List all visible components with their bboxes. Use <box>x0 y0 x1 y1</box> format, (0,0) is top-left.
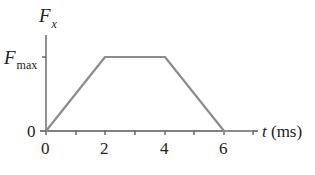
x-var: t <box>262 122 267 141</box>
x-tick-label-2: 2 <box>100 140 109 157</box>
y-axis-label: Fx <box>39 6 56 25</box>
y-sub: x <box>52 17 57 31</box>
x-tick-label-4: 4 <box>160 140 169 157</box>
y-zero-label: 0 <box>27 123 36 140</box>
fmax-sub: max <box>17 58 38 72</box>
force-curve <box>46 57 253 131</box>
y-var: F <box>39 5 51 26</box>
x-tick-label-0: 0 <box>41 140 50 157</box>
x-unit: (ms) <box>271 122 302 141</box>
x-tick-label-6: 6 <box>219 140 228 157</box>
fmax-main: F <box>4 47 16 68</box>
x-axis-label: t (ms) <box>262 123 302 140</box>
fmax-label: Fmax <box>4 48 36 67</box>
